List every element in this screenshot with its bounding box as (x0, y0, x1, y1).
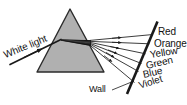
ray-arrow-yellow (110, 47, 118, 49)
wall-label: Wall (89, 85, 106, 94)
dispersed-ray-red (90, 35, 153, 41)
prism-dispersion-diagram: White light Red Orange Yellow Green Blue… (0, 0, 187, 105)
ray-arrow-blue (106, 52, 113, 56)
ray-arrow-red (112, 38, 120, 39)
ray-arrow-green (108, 50, 116, 53)
spectrum-label-red: Red (158, 27, 176, 37)
